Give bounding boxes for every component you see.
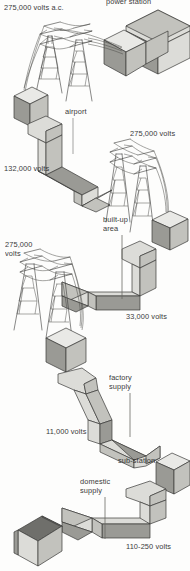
pylon [106,139,132,222]
label-33000-volts: 33,000 volts [126,312,167,321]
pylon [66,24,92,101]
label-sub-station: sub-station [118,456,155,465]
label-110-250-volts: 110-250 volts [126,542,171,551]
label-built-up-area-group: built-up area [103,215,135,233]
label-factory-supply: factory supply [109,373,143,391]
transformer-box [46,328,86,372]
transformer-box [152,211,188,250]
label-275000-volts-left: 275,000 volts [5,240,41,258]
label-132000-volts: 132,000 volts [4,164,49,173]
overhead-wires [24,22,92,92]
label-275000-volts-right: 275,000 volts [130,129,175,138]
label-airport: airport [65,107,87,116]
leader-line-built-up-area [121,235,123,299]
label-power-station: power station [106,0,151,6]
label-11000-volts: 11,000 volts [46,427,87,436]
power-station-building [104,10,190,76]
diagram-canvas: .top { fill:#e9e9e6; } .lite { fill:#dcd… [0,0,190,571]
overhead-wires [110,139,168,216]
label-airport-group: airport [65,107,87,116]
label-built-up-area: built-up area [103,215,135,233]
leader-line-airport [72,118,74,154]
label-factory-supply-group: factory supply [109,373,143,391]
pylon [36,22,62,93]
pylon [14,249,42,330]
label-domestic-supply-group: domestic supply [80,477,120,495]
label-domestic-supply: domestic supply [80,477,120,495]
leader-line-domestic-supply [104,497,106,539]
house [14,516,62,566]
label-275000-volts-ac: 275,000 volts a.c. [4,3,64,12]
leader-line-factory-supply [129,393,131,437]
